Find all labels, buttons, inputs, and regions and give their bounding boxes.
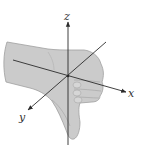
knuckle-3 xyxy=(74,97,82,103)
knuckle-1 xyxy=(73,82,81,88)
hand-illustration xyxy=(4,42,104,139)
z-axis-label: z xyxy=(63,10,70,23)
knuckle-2 xyxy=(73,90,81,96)
y-axis-label: y xyxy=(18,111,26,124)
right-hand-rule-diagram: z x y xyxy=(0,0,143,150)
origin-point xyxy=(67,75,70,78)
hand-wrist xyxy=(4,42,104,139)
x-axis-label: x xyxy=(128,87,135,100)
